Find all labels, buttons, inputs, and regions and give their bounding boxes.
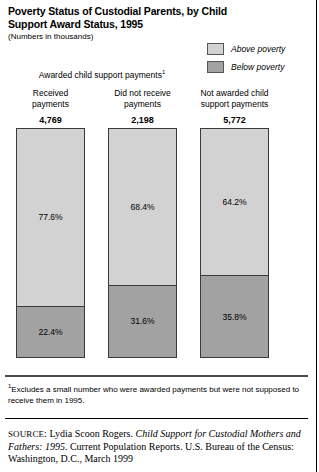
segment-percent-label: 31.6%: [130, 316, 154, 326]
column-label-line2: payments: [100, 99, 185, 110]
chart-footnote: 1Excludes a small number who were awarde…: [8, 385, 304, 406]
bar-segment-below-poverty: 31.6%: [109, 285, 176, 357]
column-total-value: 2,198: [100, 112, 185, 128]
bar-segment-below-poverty: 35.8%: [201, 275, 268, 357]
legend-item-above-poverty: Above poverty: [207, 41, 311, 56]
bar-segment-above-poverty: 68.4%: [109, 129, 176, 285]
chart-page: Poverty Status of Custodial Parents, by …: [0, 0, 319, 472]
legend-label: Below poverty: [231, 62, 284, 72]
awarded-group-header: Awarded child support payments1: [8, 70, 196, 80]
column-label-line2: support payments: [192, 99, 277, 110]
source-author: : Lydia Scoon Rogers.: [44, 428, 135, 439]
segment-percent-label: 22.4%: [38, 327, 62, 337]
column-total-value: 5,772: [192, 112, 277, 128]
segment-percent-label: 68.4%: [130, 202, 154, 212]
column-label: Not awarded child support payments: [192, 88, 277, 112]
source-prefix: SOURCE: [8, 429, 44, 439]
column-label-line2: payments: [8, 99, 93, 110]
footnote-text: Excludes a small number who were awarded…: [8, 385, 299, 405]
column-label: Did not receive payments: [100, 88, 185, 112]
bar-segment-below-poverty: 22.4%: [17, 306, 84, 357]
stacked-bar: 68.4% 31.6%: [108, 128, 177, 358]
legend-swatch-icon: [207, 43, 224, 55]
column-label-line1: Not awarded child: [192, 88, 277, 99]
legend-label: Above poverty: [231, 44, 285, 54]
column-total-value: 4,769: [8, 112, 93, 128]
chart-legend: Above poverty Below poverty: [207, 41, 311, 77]
column-label: Received payments: [8, 88, 93, 112]
column-label-line1: Did not receive: [100, 88, 185, 99]
stacked-bar: 64.2% 35.8%: [200, 128, 269, 358]
chart-plot-area: Received payments 4,769 77.6% 22.4% Did …: [8, 88, 311, 378]
stacked-bar: 77.6% 22.4%: [16, 128, 85, 358]
source-citation: SOURCE: Lydia Scoon Rogers. Child Suppor…: [8, 428, 305, 466]
column-group-did-not-receive-payments: Did not receive payments 2,198 68.4% 31.…: [100, 88, 185, 358]
source-divider: [5, 418, 308, 419]
page-title: Poverty Status of Custodial Parents, by …: [8, 5, 236, 30]
column-group-not-awarded: Not awarded child support payments 5,772…: [192, 88, 277, 358]
column-label-line1: Received: [8, 88, 93, 99]
bar-segment-above-poverty: 64.2%: [201, 129, 268, 275]
chart-baseline-rule: [5, 375, 308, 377]
segment-percent-label: 64.2%: [222, 197, 246, 207]
legend-item-below-poverty: Below poverty: [207, 59, 311, 74]
segment-percent-label: 35.8%: [222, 312, 246, 322]
column-group-received-payments: Received payments 4,769 77.6% 22.4%: [8, 88, 93, 358]
awarded-group-footnote-marker: 1: [162, 69, 165, 75]
bar-segment-above-poverty: 77.6%: [17, 129, 84, 306]
legend-swatch-icon: [207, 61, 224, 73]
segment-percent-label: 77.6%: [38, 212, 62, 222]
awarded-group-header-text: Awarded child support payments: [39, 70, 162, 80]
